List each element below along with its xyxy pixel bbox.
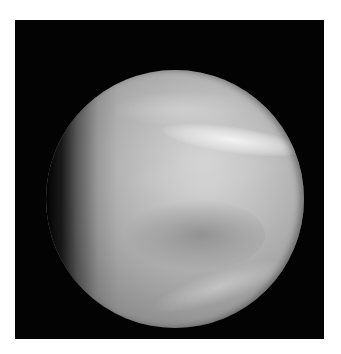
- planet: [46, 70, 304, 328]
- planet-limb: [46, 70, 304, 328]
- black-background: [15, 20, 324, 339]
